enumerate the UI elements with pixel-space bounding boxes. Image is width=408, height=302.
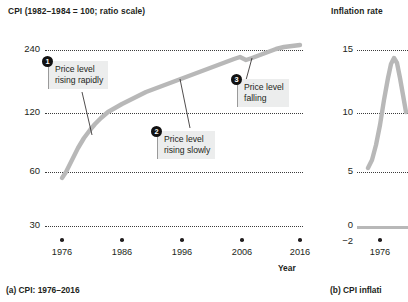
panel-b-caption: (b) CPI inflati [330,285,382,295]
x-tick-1976-panel-b: 1976 [360,248,400,257]
x-tick-dot-1976-panel-b [378,238,382,242]
inflation-curve [0,0,408,302]
figure-cpi-and-inflation: CPI (1982–1984 = 100; ratio scale) 240 1… [0,0,408,302]
